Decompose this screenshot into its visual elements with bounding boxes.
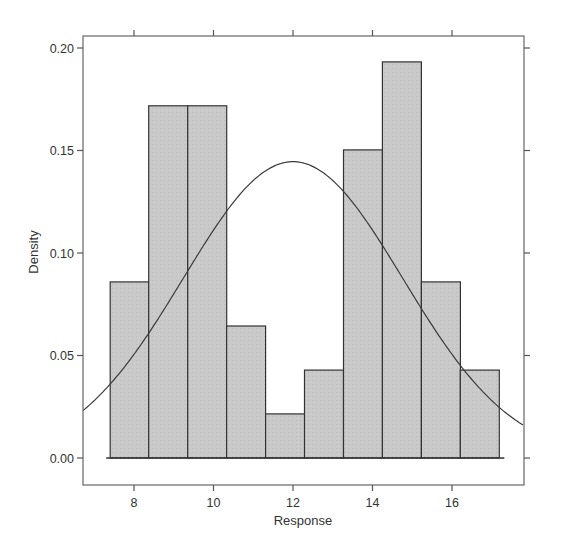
y-axis-label: Density: [26, 230, 41, 274]
y-tick-label: 0.20: [50, 42, 74, 56]
histogram-chart: 0.000.050.100.150.20 810121416 Response …: [0, 0, 561, 550]
histogram-bar: [344, 150, 383, 458]
histogram-bar: [305, 370, 344, 458]
y-tick-label: 0.00: [50, 452, 74, 466]
histogram-bar: [382, 62, 421, 458]
histogram-bar: [110, 282, 149, 458]
histogram-bar: [227, 326, 266, 458]
x-axis-label: Response: [274, 513, 333, 528]
y-tick-label: 0.15: [50, 144, 74, 158]
x-tick-label: 10: [207, 496, 221, 510]
histogram-bar: [266, 414, 305, 458]
x-tick-label: 8: [131, 496, 138, 510]
histogram-bar: [188, 106, 227, 458]
y-tick-label: 0.10: [50, 247, 74, 261]
histogram-bar: [421, 282, 460, 458]
x-axis-tick-labels: 810121416: [131, 496, 459, 510]
y-tick-label: 0.05: [50, 349, 74, 363]
x-tick-label: 16: [445, 496, 459, 510]
histogram-bars: [110, 62, 499, 458]
histogram-bar: [149, 106, 188, 458]
histogram-bar: [460, 370, 499, 458]
x-tick-label: 14: [366, 496, 380, 510]
x-tick-label: 12: [286, 496, 300, 510]
y-axis-tick-labels: 0.000.050.100.150.20: [50, 42, 74, 466]
